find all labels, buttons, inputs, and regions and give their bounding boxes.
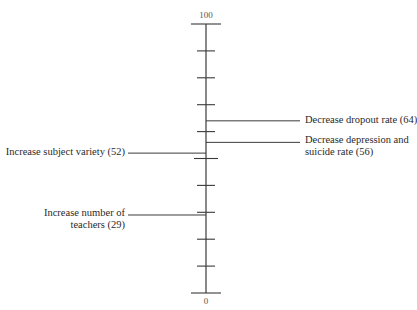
leader-lines bbox=[128, 121, 300, 215]
label-teachers: Increase number of teachers (29) bbox=[44, 207, 125, 231]
axis-min-label: 0 bbox=[191, 296, 221, 306]
label-depression: Decrease depression and suicide rate (56… bbox=[305, 134, 409, 158]
label-dropout: Decrease dropout rate (64) bbox=[305, 114, 417, 126]
axis-max-label: 100 bbox=[191, 10, 221, 20]
label-subject-variety: Increase subject variety (52) bbox=[6, 146, 125, 158]
